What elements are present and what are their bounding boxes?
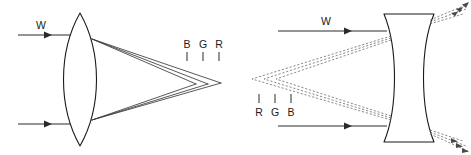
left-incoming-top-ray	[18, 32, 72, 39]
left-focus-label-blue: B	[183, 38, 190, 50]
right-virtual-rays-from-top	[252, 36, 391, 79]
right-focus-label-red: R	[255, 106, 263, 118]
right-diverging-output-rays-top	[430, 2, 469, 24]
left-refracted-rays-from-bottom	[92, 83, 221, 120]
biconvex-lens-shape	[64, 13, 97, 146]
left-panel-converging-lens-diagram: W B G R	[18, 13, 223, 146]
right-incoming-bottom-ray	[278, 123, 387, 130]
right-focus-label-blue: B	[287, 106, 294, 118]
right-incoming-top-ray	[278, 28, 387, 35]
biconcave-lens-shape	[384, 14, 434, 142]
left-focus-tick-marks	[187, 52, 219, 61]
right-panel-diverging-lens-diagram: W	[252, 2, 469, 153]
right-focus-tick-marks	[259, 94, 291, 103]
left-focus-label-red: R	[215, 38, 223, 50]
right-white-light-label: W	[321, 15, 331, 27]
left-incoming-bottom-ray	[18, 121, 72, 128]
right-diverging-output-rays-bottom	[430, 130, 469, 153]
right-focus-label-green: G	[271, 106, 279, 118]
figure-canvas: W B G R	[0, 0, 471, 155]
chromatic-aberration-figure: W B G R	[0, 0, 471, 155]
left-white-light-label: W	[36, 19, 46, 31]
left-focus-label-green: G	[199, 38, 207, 50]
